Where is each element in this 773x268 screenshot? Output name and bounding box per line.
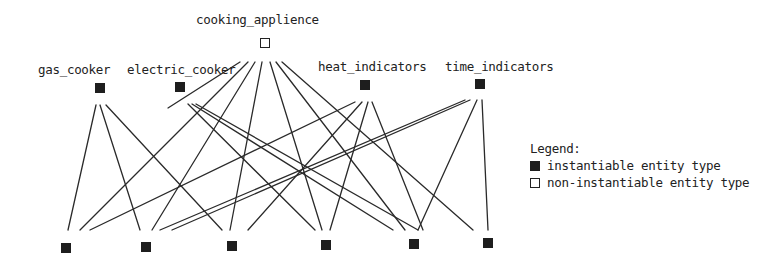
node-heat-indicators-filled-square-icon (360, 80, 370, 90)
node-electric-cooker-filled-square-icon (175, 82, 185, 92)
edge-line (482, 100, 488, 230)
legend-title: Legend: (530, 140, 749, 157)
edge-line (68, 105, 96, 230)
legend: Legend: instantiable entity type non-ins… (530, 140, 749, 191)
node-cooking-applience-hollow-square-icon (260, 38, 270, 48)
node-b1-filled-square-icon (61, 243, 71, 253)
node-label-cooking-applience: cooking_applience (196, 12, 319, 27)
node-b5-filled-square-icon (409, 239, 419, 249)
node-b6-filled-square-icon (483, 238, 493, 248)
hollow-square-icon (530, 178, 540, 188)
legend-item-instantiable: instantiable entity type (530, 157, 749, 174)
legend-item-label: instantiable entity type (547, 158, 720, 173)
node-label-time-indicators: time_indicators (445, 59, 553, 74)
edge-line (152, 62, 255, 230)
node-label-electric-cooker: electric_cooker (127, 62, 235, 77)
edge-line (192, 104, 393, 230)
edge-line (100, 105, 140, 230)
edge-line (80, 62, 248, 230)
legend-item-non-instantiable: non-instantiable entity type (530, 174, 749, 191)
node-b2-filled-square-icon (141, 242, 151, 252)
node-label-heat-indicators: heat_indicators (318, 59, 426, 74)
filled-square-icon (530, 161, 540, 171)
node-gas-cooker-filled-square-icon (95, 83, 105, 93)
node-time-indicators-filled-square-icon (475, 79, 485, 89)
edge-line (230, 62, 262, 230)
node-b4-filled-square-icon (321, 240, 331, 250)
edges (68, 62, 488, 230)
edge-line (90, 102, 355, 230)
edge-line (282, 62, 473, 230)
edge-line (160, 100, 465, 230)
node-b3-filled-square-icon (227, 241, 237, 251)
legend-item-label: non-instantiable entity type (547, 175, 749, 190)
diagram-canvas (0, 0, 773, 268)
edge-line (188, 104, 315, 230)
edge-line (248, 102, 362, 230)
node-label-gas-cooker: gas_cooker (38, 62, 110, 77)
